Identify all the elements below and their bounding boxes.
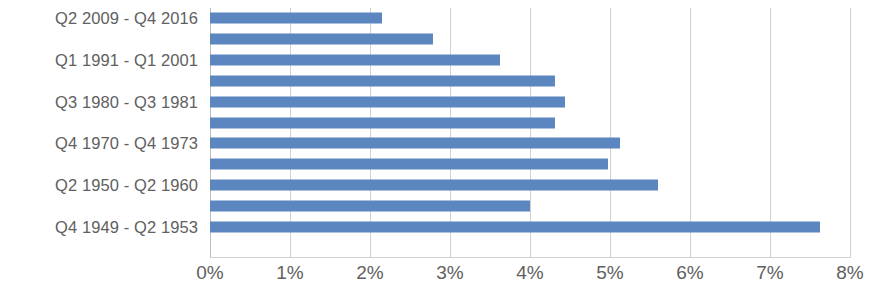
bar-series	[210, 8, 850, 258]
bar	[210, 55, 500, 66]
bar	[210, 221, 820, 232]
value-tick-label: 1%	[276, 262, 303, 284]
bar	[210, 138, 620, 149]
value-tick-label: 8%	[836, 262, 863, 284]
category-label: Q2 2009 - Q4 2016	[55, 10, 198, 27]
bar	[210, 34, 433, 45]
category-axis: Q2 2009 - Q4 2016Q1 1991 - Q1 2001Q3 198…	[0, 0, 206, 258]
value-tick-label: 6%	[676, 262, 703, 284]
plot-area	[210, 8, 850, 258]
value-tick-label: 0%	[196, 262, 223, 284]
bar	[210, 200, 530, 211]
category-label: Q2 1950 - Q2 1960	[55, 177, 198, 194]
value-tick-label: 3%	[436, 262, 463, 284]
bar	[210, 96, 565, 107]
value-tick-label: 2%	[356, 262, 383, 284]
category-label: Q1 1991 - Q1 2001	[55, 52, 198, 69]
gridline-8%	[850, 8, 851, 258]
category-label: Q3 1980 - Q3 1981	[55, 94, 198, 111]
value-tick-label: 4%	[516, 262, 543, 284]
value-tick-label: 7%	[756, 262, 783, 284]
value-tick-label: 5%	[596, 262, 623, 284]
category-label: Q4 1970 - Q4 1973	[55, 135, 198, 152]
category-label: Q4 1949 - Q2 1953	[55, 219, 198, 236]
bar	[210, 180, 658, 191]
bar-chart: Q2 2009 - Q4 2016Q1 1991 - Q1 2001Q3 198…	[0, 0, 870, 297]
bar	[210, 13, 382, 24]
bar	[210, 117, 555, 128]
bar	[210, 159, 608, 170]
value-axis: 0%1%2%3%4%5%6%7%8%	[210, 262, 850, 294]
bar	[210, 75, 555, 86]
